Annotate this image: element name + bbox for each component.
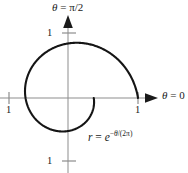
curve-equation-label: r = e−θ/(2π): [88, 130, 132, 143]
logarithmic-spiral-curve: [25, 43, 138, 132]
horizontal-axis-value: 0: [179, 89, 185, 101]
equation-equals: =: [92, 131, 104, 143]
vertical-axis-label: θ = π/2: [52, 2, 83, 13]
equation-exponent: −θ/(2π): [110, 129, 133, 138]
vertical-axis-equals: =: [57, 1, 69, 13]
y-axis-tick-label-bottom: 1: [47, 156, 52, 167]
y-axis-tick-label-top: 1: [47, 28, 52, 39]
polar-spiral-figure: θ = π/2 θ = 0 r = e−θ/(2π) 1 1 1 1: [0, 0, 188, 173]
vertical-axis-value: π/2: [69, 1, 83, 13]
equation-exponent-rest: /(2π): [118, 129, 133, 138]
horizontal-axis-label: θ = 0: [162, 90, 185, 101]
y-axis-arrowhead-icon: [63, 15, 73, 28]
x-axis-tick-label-right: 1: [135, 105, 140, 116]
x-axis-arrowhead-icon: [145, 93, 158, 103]
x-axis-tick-label-left: 1: [6, 105, 11, 116]
horizontal-axis-equals: =: [167, 89, 179, 101]
plot-canvas: [0, 0, 188, 173]
